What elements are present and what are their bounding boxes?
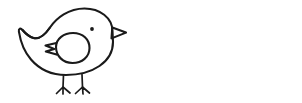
bird-eye xyxy=(90,27,94,31)
artwork-canvas xyxy=(0,0,302,103)
bird-leg-front xyxy=(82,75,83,88)
two-birds-illustration xyxy=(0,0,302,103)
bird-leg-back xyxy=(63,75,64,87)
